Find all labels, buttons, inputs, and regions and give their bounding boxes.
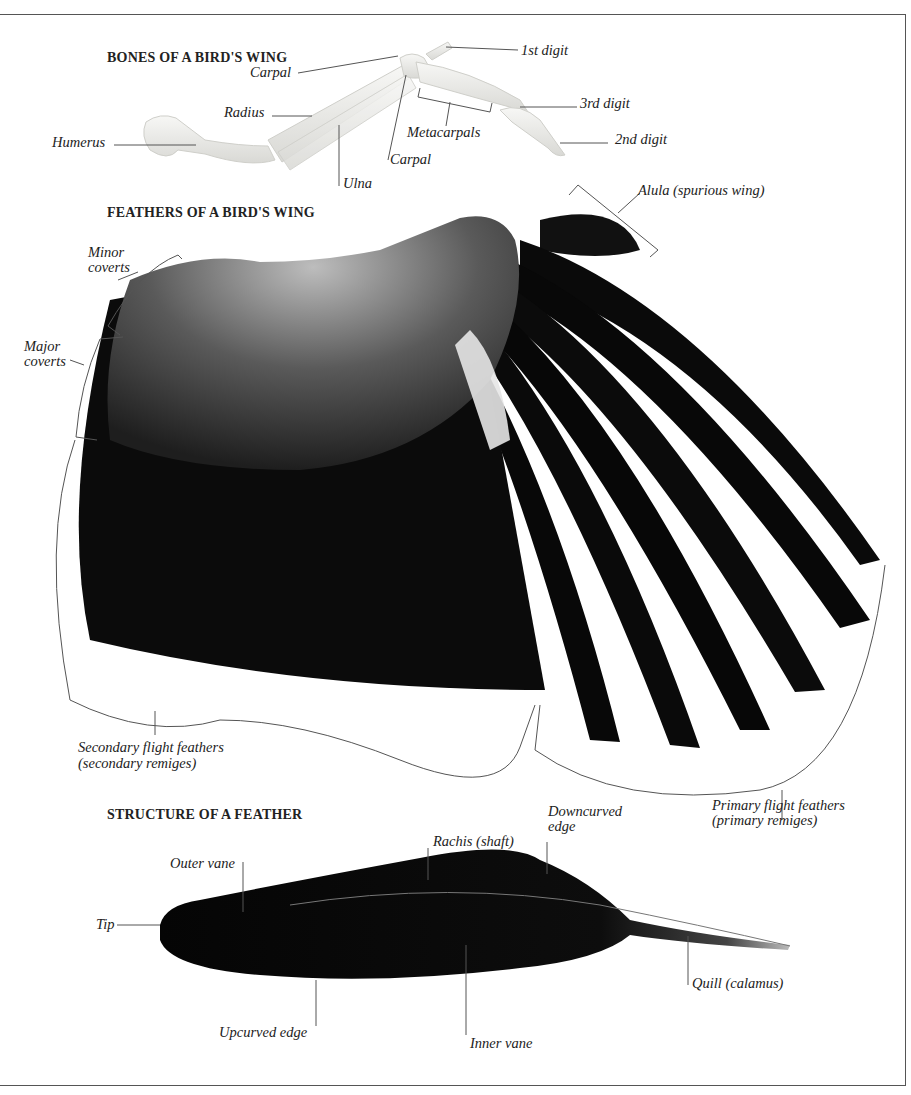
label-third-digit: 3rd digit	[580, 95, 630, 112]
wing-feathers	[79, 214, 880, 748]
heading-feathers: FEATHERS OF A BIRD'S WING	[107, 205, 315, 221]
label-humerus: Humerus	[52, 134, 105, 151]
label-downcurved-line2: edge	[548, 818, 575, 835]
label-tip: Tip	[96, 916, 115, 933]
label-upcurved-edge: Upcurved edge	[219, 1024, 307, 1041]
label-metacarpals: Metacarpals	[407, 124, 480, 141]
label-inner-vane: Inner vane	[470, 1035, 532, 1052]
label-alula: Alula (spurious wing)	[638, 182, 764, 199]
label-carpal-upper: Carpal	[250, 64, 291, 81]
label-first-digit: 1st digit	[521, 42, 568, 59]
heading-structure: STRUCTURE OF A FEATHER	[107, 807, 302, 823]
label-minor-coverts-line2: coverts	[88, 259, 130, 276]
label-ulna: Ulna	[343, 175, 372, 192]
illustration-artwork	[0, 0, 911, 1095]
label-radius: Radius	[224, 104, 264, 121]
label-secondary-line1: Secondary flight feathers	[78, 739, 224, 756]
label-carpal-lower: Carpal	[390, 151, 431, 168]
label-major-coverts-line2: coverts	[24, 353, 66, 370]
label-outer-vane: Outer vane	[170, 855, 235, 872]
single-feather	[160, 849, 790, 978]
label-primary-line2: (primary remiges)	[712, 812, 817, 829]
label-secondary-line2: (secondary remiges)	[78, 755, 196, 772]
label-second-digit: 2nd digit	[615, 131, 667, 148]
label-rachis: Rachis (shaft)	[433, 833, 514, 850]
label-quill: Quill (calamus)	[692, 975, 783, 992]
